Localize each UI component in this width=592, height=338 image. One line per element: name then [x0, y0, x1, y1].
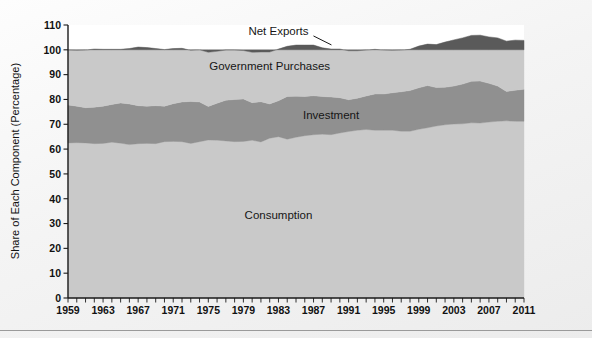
x-tick-label: 1979: [232, 304, 256, 316]
footer-divider: [0, 330, 592, 331]
x-tick-label: 1991: [337, 304, 361, 316]
x-tick-label: 1963: [91, 304, 115, 316]
y-tick-label: 100: [43, 44, 61, 56]
x-tick-label: 1995: [372, 304, 396, 316]
annotation-investment: Investment: [303, 109, 360, 121]
x-tick-label: 1983: [267, 304, 291, 316]
y-tick-label: 80: [49, 93, 61, 105]
x-axis: 1959196319671971197519791983198719911995…: [56, 298, 535, 316]
y-axis: 0102030405060708090100110: [43, 19, 68, 304]
y-tick-label: 70: [49, 118, 61, 130]
figure-container: 0102030405060708090100110 19591963196719…: [0, 0, 592, 338]
x-tick-label: 2003: [442, 304, 466, 316]
x-tick-label: 2007: [477, 304, 501, 316]
annotation-government-purchases: Government Purchases: [209, 60, 330, 72]
x-tick-label: 1971: [162, 304, 186, 316]
x-tick-label: 1987: [302, 304, 326, 316]
area-series-group: [68, 35, 524, 298]
y-tick-label: 110: [44, 19, 61, 31]
y-tick-label: 30: [49, 217, 61, 229]
y-tick-label: 10: [49, 267, 61, 279]
y-tick-label: 90: [49, 68, 61, 80]
x-tick-label: 2011: [513, 304, 536, 316]
y-tick-label: 60: [49, 143, 61, 155]
stacked-area-chart: 0102030405060708090100110 19591963196719…: [0, 0, 592, 338]
y-tick-label: 40: [49, 193, 61, 205]
y-tick-label: 50: [49, 168, 61, 180]
x-tick-label: 1975: [197, 304, 221, 316]
x-tick-label: 1999: [407, 304, 431, 316]
x-tick-label: 1959: [56, 304, 80, 316]
y-tick-label: 0: [55, 292, 61, 304]
y-axis-title: Share of Each Component (Percentage): [9, 63, 21, 259]
y-tick-label: 20: [49, 242, 61, 254]
annotation-consumption: Consumption: [245, 209, 313, 221]
annotation-net-exports: Net Exports: [248, 25, 308, 37]
x-tick-label: 1967: [126, 304, 150, 316]
